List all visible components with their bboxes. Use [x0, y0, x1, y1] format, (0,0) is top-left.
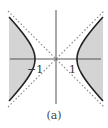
figure-caption: (a)	[0, 110, 108, 121]
tick-label-one: 1	[69, 64, 76, 75]
tick-label-neg-one: −1	[27, 64, 43, 75]
hyperbola-figure: −1 1 (a)	[0, 0, 108, 128]
